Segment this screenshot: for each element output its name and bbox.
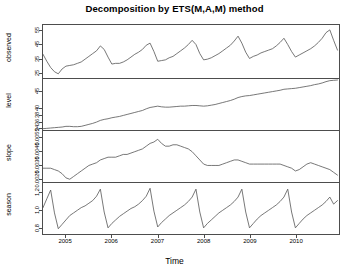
y-tick-label: 38 (34, 112, 40, 118)
y-tick-label: 45 (34, 41, 40, 47)
x-axis-title: Time (0, 256, 349, 266)
y-tick-label: 40 (34, 105, 40, 111)
x-tick-label: 2008 (184, 238, 224, 244)
chart-title: Decomposition by ETS(M,A,M) method (0, 3, 349, 14)
series-observed (43, 25, 339, 78)
y-tick-label: 35 (34, 56, 40, 62)
series-season (43, 183, 339, 234)
axis-label-season: season (5, 182, 12, 228)
y-tick-label: 1.0 (34, 206, 40, 214)
series-slope (43, 131, 339, 182)
x-tick-label: 2007 (138, 238, 178, 244)
panel-season (42, 183, 340, 235)
y-tick-label: 55 (34, 27, 40, 33)
axis-label-level: level (5, 78, 12, 124)
panel-slope (42, 131, 340, 183)
y-tick-label: 0.8 (34, 224, 40, 232)
panel-level (42, 79, 340, 131)
y-tick-label: 1.2 (34, 188, 40, 196)
y-tick-label: 36 (34, 118, 40, 124)
panel-observed (42, 24, 340, 79)
x-tick-label: 2006 (91, 238, 131, 244)
series-level (43, 79, 339, 130)
x-tick-label: 2005 (45, 238, 85, 244)
axis-label-observed: observed (5, 23, 12, 73)
x-tick-label: 2010 (276, 238, 316, 244)
ets-decomposition-chart: Decomposition by ETS(M,A,M) method obser… (0, 0, 349, 276)
y-tick-label: 45 (34, 88, 40, 94)
axis-label-slope: slope (5, 130, 12, 176)
x-tick-label: 2009 (230, 238, 270, 244)
y-tick-label: 25 (34, 70, 40, 76)
y-tick-label: 0.0055 (34, 128, 40, 145)
